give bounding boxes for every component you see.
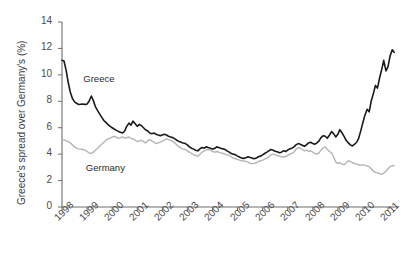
line-chart: Greece's spread over Germany's (%) 02468… xyxy=(0,0,410,262)
series-annotation-germany: Germany xyxy=(86,162,125,173)
y-tick-label: 14 xyxy=(32,15,52,26)
y-tick-label: 10 xyxy=(32,68,52,79)
y-tick-label: 0 xyxy=(32,200,52,211)
plot-canvas xyxy=(0,0,410,262)
axis-spine xyxy=(62,22,398,207)
y-tick-label: 6 xyxy=(32,121,52,132)
series-annotation-greece: Greece xyxy=(83,73,114,84)
y-axis-title: Greece's spread over Germany's (%) xyxy=(16,41,27,205)
series-line-greece xyxy=(62,50,394,159)
y-tick-label: 2 xyxy=(32,174,52,185)
y-tick-label: 12 xyxy=(32,41,52,52)
y-tick-label: 4 xyxy=(32,147,52,158)
y-tick-label: 8 xyxy=(32,94,52,105)
